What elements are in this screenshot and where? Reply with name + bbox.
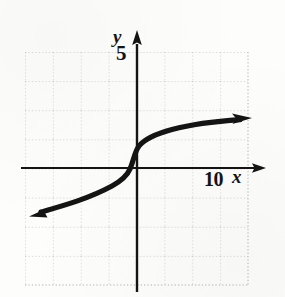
- x-axis-tick-label: 10: [204, 168, 223, 191]
- graph-canvas: [0, 0, 285, 297]
- y-axis-tick-label: 5: [116, 41, 127, 66]
- graph-figure: y 5 10 x: [0, 0, 285, 297]
- x-axis-label: x: [232, 166, 242, 188]
